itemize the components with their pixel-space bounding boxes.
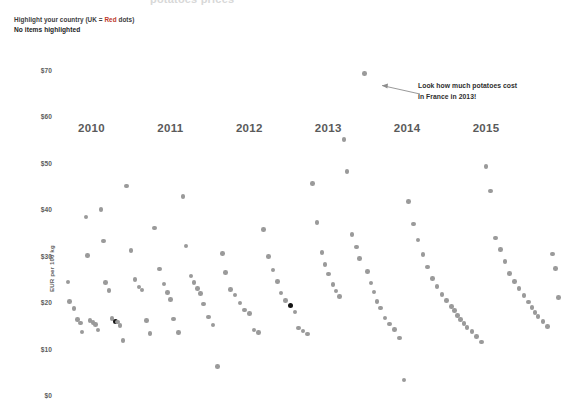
data-point[interactable]	[101, 239, 106, 244]
data-point[interactable]	[129, 248, 134, 253]
data-point[interactable]	[320, 250, 325, 255]
data-point[interactable]	[387, 322, 392, 327]
data-point[interactable]	[470, 329, 475, 334]
data-point[interactable]	[545, 324, 550, 329]
data-point[interactable]	[78, 321, 83, 326]
data-point[interactable]	[140, 288, 145, 293]
data-point[interactable]	[541, 319, 546, 324]
data-point[interactable]	[369, 281, 374, 286]
data-point[interactable]	[124, 184, 129, 189]
data-point[interactable]	[279, 291, 284, 296]
data-point[interactable]	[168, 297, 173, 302]
data-point[interactable]	[271, 268, 276, 273]
data-point[interactable]	[99, 207, 104, 212]
data-point[interactable]	[148, 331, 153, 336]
data-point[interactable]	[107, 288, 112, 293]
data-point[interactable]	[444, 298, 449, 303]
data-point[interactable]	[189, 274, 194, 279]
data-point[interactable]	[165, 290, 170, 295]
data-point-highlighted[interactable]	[288, 303, 293, 308]
data-point[interactable]	[223, 270, 228, 275]
data-point[interactable]	[93, 322, 98, 327]
data-point[interactable]	[72, 306, 77, 311]
data-point[interactable]	[323, 262, 328, 267]
data-point[interactable]	[383, 316, 388, 321]
data-point[interactable]	[84, 215, 89, 220]
data-point[interactable]	[430, 276, 435, 281]
data-point[interactable]	[406, 199, 411, 204]
data-point[interactable]	[372, 290, 377, 295]
data-point[interactable]	[411, 222, 416, 227]
data-point[interactable]	[144, 318, 149, 323]
data-point[interactable]	[378, 306, 383, 311]
data-point[interactable]	[275, 279, 280, 284]
data-point[interactable]	[362, 71, 367, 76]
data-point[interactable]	[421, 252, 426, 257]
data-point[interactable]	[96, 328, 101, 333]
data-point[interactable]	[440, 292, 445, 297]
data-point[interactable]	[357, 256, 362, 261]
data-point[interactable]	[452, 308, 457, 313]
data-point[interactable]	[354, 245, 359, 250]
data-point[interactable]	[526, 300, 531, 305]
data-point[interactable]	[392, 327, 397, 332]
data-point[interactable]	[425, 265, 430, 270]
data-point[interactable]	[162, 282, 167, 287]
data-point[interactable]	[103, 280, 108, 285]
data-point[interactable]	[228, 287, 233, 292]
data-point[interactable]	[507, 271, 512, 276]
data-point[interactable]	[345, 169, 350, 174]
data-point[interactable]	[238, 301, 243, 306]
data-point[interactable]	[553, 266, 558, 271]
data-point[interactable]	[498, 247, 503, 252]
data-point[interactable]	[67, 299, 72, 304]
data-point[interactable]	[375, 299, 380, 304]
data-point[interactable]	[479, 340, 484, 345]
data-point[interactable]	[310, 181, 315, 186]
data-point[interactable]	[484, 164, 489, 169]
data-point[interactable]	[315, 220, 320, 225]
data-point[interactable]	[133, 277, 138, 282]
data-point[interactable]	[536, 314, 541, 319]
data-point[interactable]	[215, 364, 220, 369]
data-point[interactable]	[220, 251, 225, 256]
data-point[interactable]	[247, 311, 252, 316]
data-point[interactable]	[152, 226, 157, 231]
data-point[interactable]	[550, 252, 555, 257]
data-point[interactable]	[342, 137, 347, 142]
data-point[interactable]	[293, 310, 298, 315]
data-point[interactable]	[198, 291, 203, 296]
data-point[interactable]	[118, 323, 123, 328]
data-point[interactable]	[503, 259, 508, 264]
data-point[interactable]	[184, 244, 189, 249]
data-point[interactable]	[176, 330, 181, 335]
data-point[interactable]	[402, 378, 407, 383]
data-point[interactable]	[192, 280, 197, 285]
data-point[interactable]	[211, 323, 216, 328]
data-point[interactable]	[556, 295, 561, 300]
data-point[interactable]	[530, 305, 535, 310]
data-point[interactable]	[488, 189, 493, 194]
data-point[interactable]	[465, 325, 470, 330]
data-point[interactable]	[331, 282, 336, 287]
data-point[interactable]	[337, 294, 342, 299]
data-point[interactable]	[474, 334, 479, 339]
data-point[interactable]	[365, 269, 370, 274]
data-point[interactable]	[85, 253, 90, 258]
data-point[interactable]	[171, 317, 176, 322]
data-point[interactable]	[201, 302, 206, 307]
data-point[interactable]	[181, 194, 186, 199]
plot-area[interactable]: 201020112012201320142015 $0$10$20$30$40$…	[56, 70, 561, 395]
data-point[interactable]	[397, 336, 402, 341]
data-point[interactable]	[512, 279, 517, 284]
data-point[interactable]	[416, 238, 421, 243]
data-point[interactable]	[296, 326, 301, 331]
data-point[interactable]	[350, 232, 355, 237]
data-point[interactable]	[522, 293, 527, 298]
data-point[interactable]	[261, 227, 266, 232]
data-point[interactable]	[493, 236, 498, 241]
data-point[interactable]	[305, 332, 310, 337]
data-point[interactable]	[80, 330, 85, 335]
data-point[interactable]	[517, 286, 522, 291]
data-point[interactable]	[283, 298, 288, 303]
